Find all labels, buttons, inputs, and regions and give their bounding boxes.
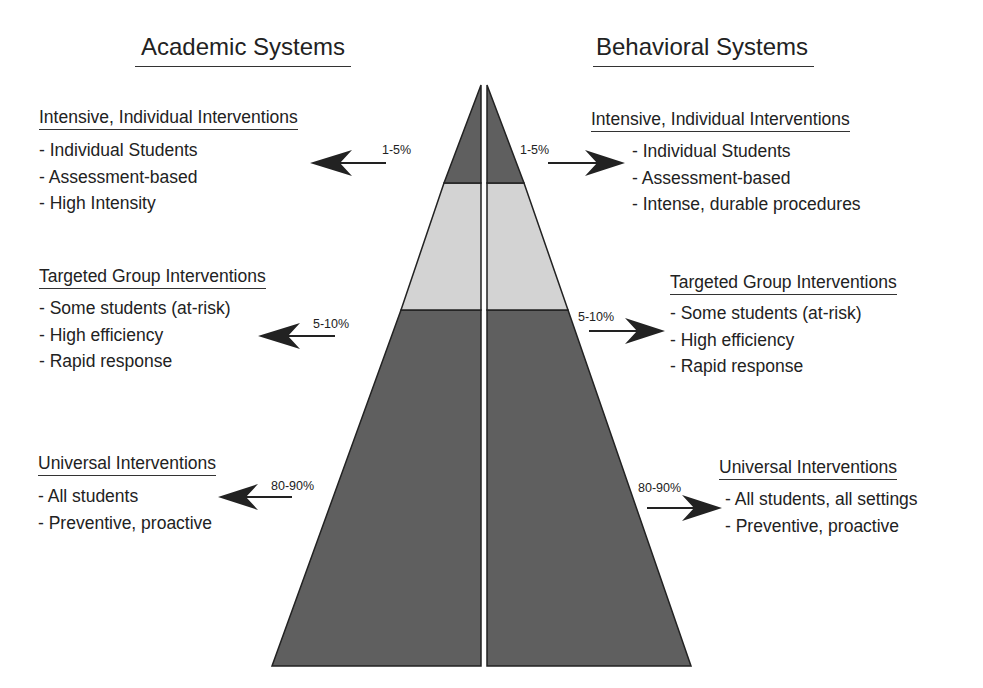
- arrow-left-icon: [310, 150, 386, 176]
- academic-pyramid-half: [272, 85, 481, 666]
- academic-targeted-list: - Some students (at-risk) - High efficie…: [39, 295, 231, 375]
- academic-intensive-heading: Intensive, Individual Interventions: [39, 107, 298, 130]
- list-item: - Some students (at-risk): [670, 300, 862, 327]
- arrow-right-icon: [548, 150, 625, 176]
- list-item: - Preventive, proactive: [725, 513, 918, 540]
- behavioral-targeted-tier: [487, 183, 568, 310]
- list-item: - High efficiency: [670, 327, 862, 354]
- list-item: - Assessment-based: [632, 165, 861, 192]
- behavioral-targeted-percent: 5-10%: [578, 310, 614, 324]
- behavioral-targeted-heading: Targeted Group Interventions: [670, 272, 897, 295]
- behavioral-title: Behavioral Systems: [593, 34, 814, 67]
- list-item: - High Intensity: [39, 190, 198, 217]
- behavioral-intensive-list: - Individual Students - Assessment-based…: [632, 138, 861, 218]
- academic-title: Academic Systems: [135, 34, 351, 67]
- arrow-right-icon: [647, 495, 722, 521]
- list-item: - Preventive, proactive: [38, 510, 212, 537]
- behavioral-targeted-list: - Some students (at-risk) - High efficie…: [670, 300, 862, 380]
- list-item: - Individual Students: [632, 138, 861, 165]
- behavioral-universal-heading: Universal Interventions: [719, 457, 897, 480]
- academic-universal-heading: Universal Interventions: [38, 453, 216, 476]
- academic-intensive-list: - Individual Students - Assessment-based…: [39, 137, 198, 217]
- behavioral-universal-percent: 80-90%: [638, 481, 681, 495]
- behavioral-intensive-tier: [487, 85, 524, 183]
- academic-universal-percent: 80-90%: [271, 479, 314, 493]
- list-item: - High efficiency: [39, 322, 231, 349]
- academic-universal-list: - All students - Preventive, proactive: [38, 483, 212, 536]
- academic-targeted-percent: 5-10%: [313, 317, 349, 331]
- list-item: - All students: [38, 483, 212, 510]
- list-item: - All students, all settings: [725, 486, 918, 513]
- behavioral-universal-list: - All students, all settings - Preventiv…: [725, 486, 918, 539]
- list-item: - Rapid response: [670, 353, 862, 380]
- list-item: - Intense, durable procedures: [632, 191, 861, 218]
- academic-intensive-percent: 1-5%: [382, 143, 411, 157]
- behavioral-intensive-percent: 1-5%: [520, 143, 549, 157]
- academic-targeted-tier: [401, 183, 481, 310]
- academic-intensive-tier: [444, 85, 481, 183]
- behavioral-intensive-heading: Intensive, Individual Interventions: [591, 109, 850, 132]
- list-item: - Assessment-based: [39, 164, 198, 191]
- list-item: - Some students (at-risk): [39, 295, 231, 322]
- academic-targeted-heading: Targeted Group Interventions: [39, 266, 266, 289]
- list-item: - Individual Students: [39, 137, 198, 164]
- list-item: - Rapid response: [39, 348, 231, 375]
